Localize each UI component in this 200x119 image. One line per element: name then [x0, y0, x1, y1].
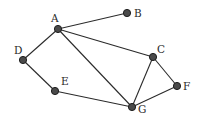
node-c — [149, 53, 156, 60]
node-f — [173, 82, 180, 89]
graph-diagram: ABCDEFG — [0, 0, 200, 119]
node-label-f: F — [183, 80, 190, 92]
edge-a-g — [58, 29, 132, 107]
node-b — [123, 9, 130, 16]
node-label-c: C — [157, 43, 165, 55]
node-d — [19, 56, 26, 63]
node-label-g: G — [138, 103, 146, 115]
edge-c-g — [132, 57, 153, 107]
edge-e-g — [55, 91, 132, 107]
edge-d-e — [23, 60, 55, 91]
node-e — [51, 87, 58, 94]
node-label-a: A — [50, 12, 59, 24]
node-label-b: B — [134, 7, 142, 19]
node-g — [128, 103, 135, 110]
edge-a-c — [58, 29, 153, 57]
labels-group: ABCDEFG — [14, 7, 190, 115]
node-label-d: D — [14, 44, 22, 56]
edge-a-d — [23, 29, 58, 60]
node-label-e: E — [61, 75, 69, 87]
node-a — [54, 25, 61, 32]
edge-a-b — [58, 13, 127, 29]
edge-c-f — [153, 57, 177, 86]
